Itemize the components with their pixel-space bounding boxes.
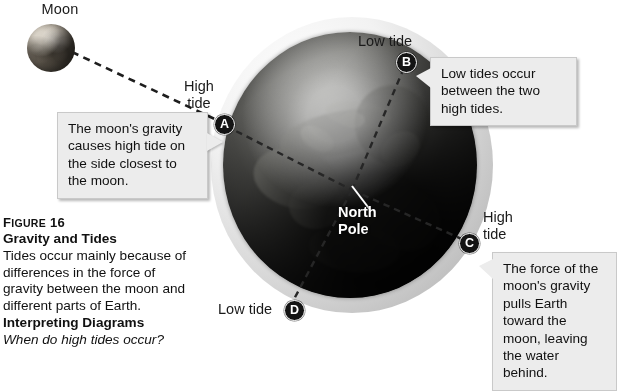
callout-low-tides-text: Low tides occur between the two high tid… xyxy=(441,66,540,116)
figure-word-rest: IGURE xyxy=(11,217,46,229)
figure-caption: FIGURE 16 Gravity and Tides Tides occur … xyxy=(3,215,199,349)
label-low-tide-b: Low tide xyxy=(358,33,412,50)
north-pole-line1: North xyxy=(338,204,377,221)
figure-title: Gravity and Tides xyxy=(3,231,199,248)
marker-b-letter: B xyxy=(402,56,411,69)
label-high-tide-a-line1: High xyxy=(174,78,224,95)
marker-d-letter: D xyxy=(290,304,299,317)
marker-a[interactable]: A xyxy=(214,114,235,135)
callout-moon-gravity-tail xyxy=(207,133,223,151)
callout-moon-gravity: The moon's gravity causes high tide on t… xyxy=(57,112,208,199)
figure-body-text: Tides occur mainly because of difference… xyxy=(3,248,199,315)
north-pole-line2: Pole xyxy=(338,221,377,238)
label-high-tide-a: High tide xyxy=(174,78,224,111)
label-high-tide-a-line2: tide xyxy=(174,95,224,112)
interpreting-diagrams-heading: Interpreting Diagrams xyxy=(3,315,199,332)
marker-b[interactable]: B xyxy=(396,52,417,73)
callout-low-tides: Low tides occur between the two high tid… xyxy=(430,57,577,126)
label-low-tide-d: Low tide xyxy=(218,301,272,318)
callout-moon-gravity-text: The moon's gravity causes high tide on t… xyxy=(68,121,185,188)
marker-d[interactable]: D xyxy=(284,300,305,321)
label-high-tide-c-line2: tide xyxy=(483,226,529,243)
figure-word-first: F xyxy=(3,215,11,230)
figure-question: When do high tides occur? xyxy=(3,332,199,349)
marker-c[interactable]: C xyxy=(459,233,480,254)
moon-icon xyxy=(27,24,75,72)
callout-low-tides-tail xyxy=(416,68,431,88)
label-high-tide-c-line1: High xyxy=(483,209,529,226)
axis-a-center xyxy=(226,126,352,190)
callout-force-of-gravity-tail xyxy=(479,259,493,279)
callout-force-of-gravity: The force of the moon's gravity pulls Ea… xyxy=(492,252,617,391)
figure-number: 16 xyxy=(50,215,65,230)
callout-force-of-gravity-text: The force of the moon's gravity pulls Ea… xyxy=(503,261,598,380)
axis-b-center xyxy=(352,68,404,190)
north-pole-label: North Pole xyxy=(338,204,377,237)
figure-number-line: FIGURE 16 xyxy=(3,215,199,230)
label-high-tide-c: High tide xyxy=(483,209,529,242)
moon-label: Moon xyxy=(20,1,100,17)
marker-a-letter: A xyxy=(220,118,229,131)
marker-c-letter: C xyxy=(465,237,474,250)
